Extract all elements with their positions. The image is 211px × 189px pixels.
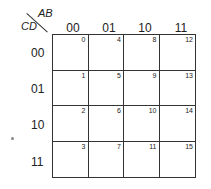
column-header: 01	[91, 21, 127, 35]
kmap-cell: 15	[160, 142, 196, 178]
kmap-cell: 2	[53, 106, 89, 142]
kmap-cell: 4	[89, 35, 125, 71]
kmap-cell: 13	[160, 71, 196, 107]
cell-index: 6	[117, 107, 121, 114]
cell-index: 3	[82, 143, 86, 150]
row-header: 10	[31, 118, 44, 132]
kmap-cell: 8	[124, 35, 160, 71]
cell-index: 9	[153, 72, 157, 79]
cell-index: 4	[117, 36, 121, 43]
kmap-cell: 12	[160, 35, 196, 71]
cell-index: 8	[153, 36, 157, 43]
cell-index: 5	[117, 72, 121, 79]
kmap-cell: 11	[124, 142, 160, 178]
kmap-cell: 0	[53, 35, 89, 71]
kmap-cell: 3	[53, 142, 89, 178]
row-header: 00	[31, 46, 44, 60]
column-header: 00	[55, 21, 91, 35]
karnaugh-map-grid: 0 4 8 12 1 5 9 13 2 6 10 14 3 7 11 15	[52, 34, 196, 178]
kmap-cell: 14	[160, 106, 196, 142]
kmap-cell: 1	[53, 71, 89, 107]
column-variable-label: AB	[38, 7, 53, 19]
row-header: 01	[31, 82, 44, 96]
cell-index: 1	[82, 72, 86, 79]
cell-index: 0	[82, 36, 86, 43]
kmap-cell: 9	[124, 71, 160, 107]
cell-index: 12	[185, 36, 193, 43]
cell-index: 7	[117, 143, 121, 150]
kmap-cell: 7	[89, 142, 125, 178]
cell-index: 15	[185, 143, 193, 150]
column-header: 11	[163, 21, 199, 35]
cell-index: 11	[149, 143, 156, 150]
row-variable-label: CD	[21, 20, 37, 32]
stray-dot	[11, 137, 14, 140]
cell-index: 14	[185, 107, 193, 114]
row-header: 11	[31, 155, 43, 169]
kmap-cell: 10	[124, 106, 160, 142]
cell-index: 10	[149, 107, 157, 114]
kmap-cell: 5	[89, 71, 125, 107]
cell-index: 13	[185, 72, 193, 79]
column-header: 10	[127, 21, 163, 35]
cell-index: 2	[82, 107, 86, 114]
kmap-cell: 6	[89, 106, 125, 142]
